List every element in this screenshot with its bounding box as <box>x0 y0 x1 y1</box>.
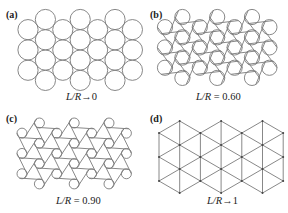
lattice-node <box>241 132 243 134</box>
circle <box>104 138 114 148</box>
lattice-node <box>241 180 243 182</box>
circle <box>35 30 55 50</box>
caption-variable: L/R <box>56 195 71 206</box>
lattice-edge <box>221 133 242 145</box>
lattice-edge <box>242 181 263 193</box>
caption-d: L/R→1 <box>207 195 238 206</box>
circle <box>244 50 259 65</box>
circle <box>210 30 225 45</box>
circle <box>18 20 38 40</box>
circle <box>34 118 44 128</box>
lattice-edge <box>221 157 242 169</box>
lattice-edge <box>221 121 242 133</box>
caption-relation: = <box>71 195 82 206</box>
caption-variable: L/R <box>196 91 211 102</box>
lattice-edge <box>159 121 180 133</box>
caption-relation: → <box>222 195 233 206</box>
circle <box>69 118 79 128</box>
circle <box>192 20 207 35</box>
lattice-node <box>282 132 284 134</box>
lattice-edge <box>242 133 263 145</box>
lattice-edge <box>263 121 284 133</box>
lattice-edge <box>159 133 180 145</box>
circle <box>87 169 97 179</box>
circle <box>122 20 142 40</box>
circle <box>121 128 131 138</box>
circle <box>52 128 62 138</box>
lattice-edge <box>200 169 221 181</box>
circle <box>87 128 97 138</box>
lattice-node <box>220 168 222 170</box>
circle <box>52 169 62 179</box>
lattice-node <box>179 192 181 194</box>
lattice-node <box>158 132 160 134</box>
lattice-edge <box>159 169 180 181</box>
circle <box>227 20 242 35</box>
circle <box>69 179 79 189</box>
circle <box>105 30 125 50</box>
lattice-edge <box>242 145 263 157</box>
lattice-edge <box>159 145 180 157</box>
lattice-node <box>220 192 222 194</box>
lattice-edge <box>263 145 284 157</box>
circle <box>244 30 259 45</box>
circle <box>192 60 207 75</box>
lattice-edge <box>263 181 284 193</box>
circle <box>227 40 242 55</box>
circle <box>18 40 38 60</box>
caption-value: 0.90 <box>82 195 100 206</box>
lattice-node <box>220 144 222 146</box>
lattice-node <box>282 180 284 182</box>
circle <box>17 148 27 158</box>
circle <box>69 159 79 169</box>
circle <box>104 118 114 128</box>
lattice-node <box>262 168 264 170</box>
lattice-edge <box>200 121 221 133</box>
circle <box>175 9 190 24</box>
circle <box>244 9 259 24</box>
lattice-edge <box>200 133 221 145</box>
circle <box>104 159 114 169</box>
lattice-node <box>220 120 222 122</box>
lattice-edge <box>221 145 242 157</box>
circle <box>70 50 90 70</box>
lattice-edge <box>242 121 263 133</box>
caption-b: L/R = 0.60 <box>196 91 241 102</box>
circle <box>53 40 73 60</box>
caption-c: L/R = 0.90 <box>56 195 101 206</box>
lattice-edge <box>242 157 263 169</box>
circle <box>70 70 90 90</box>
caption-relation: = <box>211 91 222 102</box>
lattice-node <box>262 192 264 194</box>
lattice-edge <box>263 133 284 145</box>
circle <box>105 70 125 90</box>
lattice-edge <box>180 169 201 181</box>
circle <box>18 60 38 80</box>
lattice-node <box>241 156 243 158</box>
caption-relation: → <box>81 91 92 102</box>
circle <box>121 148 131 158</box>
circle <box>88 60 108 80</box>
lattice-edge <box>180 133 201 145</box>
circle <box>157 60 172 75</box>
circle <box>88 40 108 60</box>
caption-value: 0.60 <box>222 91 240 102</box>
circle <box>122 40 142 60</box>
circle <box>121 169 131 179</box>
lattice-node <box>158 180 160 182</box>
circle <box>35 9 55 29</box>
circle <box>34 138 44 148</box>
circle <box>210 70 225 85</box>
circle <box>17 169 27 179</box>
lattice-node <box>262 120 264 122</box>
circle <box>244 70 259 85</box>
circle <box>262 20 277 35</box>
circle <box>53 60 73 80</box>
circle <box>210 50 225 65</box>
circle <box>175 50 190 65</box>
lattice-node <box>158 156 160 158</box>
circle <box>34 179 44 189</box>
lattice-node <box>179 168 181 170</box>
caption-a: L/R→0 <box>66 91 97 102</box>
circle <box>175 30 190 45</box>
